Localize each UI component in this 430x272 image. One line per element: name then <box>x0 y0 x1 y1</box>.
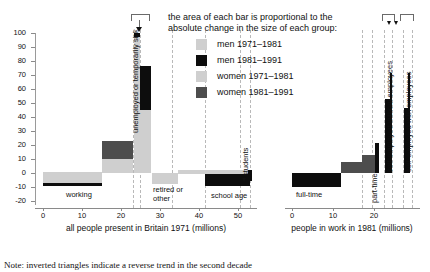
y-tick-label: -20 <box>4 197 26 205</box>
category-label-full-time: full-time <box>296 190 322 199</box>
y-tick-label: 50 <box>4 99 26 107</box>
legend-label: men 1971–1981 <box>217 39 282 50</box>
legend-item-women-81-91: women 1981–1991 <box>196 86 326 99</box>
y-tick-label: 10 <box>4 155 26 163</box>
category-label-students: students <box>241 148 250 176</box>
y-tick-mark <box>31 145 35 146</box>
y-tick-label: 70 <box>4 71 26 79</box>
category-separator <box>362 30 363 208</box>
y-tick-mark <box>31 61 35 62</box>
x-tick-label: 50 <box>229 212 247 220</box>
category-label-se-with: self-employed with employees <box>404 72 413 172</box>
legend-item-women-71-81: women 1971–1981 <box>196 70 326 83</box>
category-label-school-age: school age <box>211 191 247 200</box>
bar-working-women-71-81 <box>102 159 133 173</box>
legend-item-men-71-81: men 1971–1981 <box>196 38 326 51</box>
y-tick-label: 0 <box>4 169 26 177</box>
legend-swatch-icon <box>196 87 207 98</box>
legend-label: men 1981–1991 <box>217 55 282 66</box>
y-tick-mark <box>31 89 35 90</box>
bar-working-men-81-91 <box>43 183 102 186</box>
y-tick-mark <box>31 173 35 174</box>
y-tick-label: -10 <box>4 183 26 191</box>
category-label-retired: retired or other <box>153 185 183 203</box>
y-tick-label: 40 <box>4 113 26 121</box>
x-tick-label: 20 <box>365 212 383 220</box>
y-tick-label: 100 <box>4 29 26 37</box>
legend-swatch-icon <box>196 55 207 66</box>
y-tick-label: 20 <box>4 141 26 149</box>
bar-working-women-81-91 <box>102 141 133 159</box>
se-without-bracket <box>382 14 395 21</box>
x-axis-title-left: all people present in Britain 1971 (mill… <box>35 223 257 233</box>
category-label-unemployed: unemployed or temporarily sick <box>131 29 140 133</box>
bar-unemployed-women-81-91 <box>140 66 151 110</box>
y-tick-mark <box>31 187 35 188</box>
y-tick-label: 90 <box>4 43 26 51</box>
y-tick-label: 30 <box>4 127 26 135</box>
legend-swatch-icon <box>196 39 207 50</box>
x-axis-line-left <box>35 208 257 209</box>
category-label-se-without: self-employed without employees <box>385 61 394 172</box>
x-tick-label: 10 <box>73 212 91 220</box>
legend-label: women 1971–1981 <box>217 71 294 82</box>
bar-retired-men-71-81 <box>152 173 178 184</box>
reverse-trend-bracket <box>131 14 150 21</box>
y-tick-label: 80 <box>4 57 26 65</box>
bar-parttime-women-81-91 <box>362 155 375 173</box>
bar-schoolage-men-81-91 <box>205 174 233 186</box>
se-with-bracket <box>400 14 414 21</box>
x-tick-label: 0 <box>34 212 52 220</box>
y-tick-label: 60 <box>4 85 26 93</box>
chart-canvas: 100 90 80 70 60 50 40 30 20 10 0 -10 -20 <box>0 0 430 272</box>
legend-swatch-icon <box>196 71 207 82</box>
y-axis-line <box>35 33 36 205</box>
x-tick-label: 10 <box>324 212 342 220</box>
category-label-part-time: part-time <box>370 173 379 203</box>
y-tick-mark <box>31 117 35 118</box>
y-tick-mark <box>31 159 35 160</box>
legend-caption-line1: the area of each bar is proportional to … <box>168 12 333 23</box>
bar-parttime-men-81-91 <box>375 143 379 173</box>
y-tick-mark <box>31 47 35 48</box>
legend-item-men-81-91: men 1981–1991 <box>196 54 326 67</box>
inverted-triangle-icon <box>387 21 391 25</box>
y-tick-mark <box>31 131 35 132</box>
legend-caption-line2: absolute change in the size of each grou… <box>168 23 337 34</box>
bar-retired-women-71-81 <box>178 170 205 174</box>
legend-label: women 1981–1991 <box>217 87 294 98</box>
inverted-triangle-icon <box>242 178 246 182</box>
chart-note: Note: inverted triangles indicate a reve… <box>4 260 252 270</box>
bar-working-men-71-81 <box>43 172 102 183</box>
y-tick-mark <box>31 33 35 34</box>
category-label-working: working <box>66 190 92 199</box>
y-tick-mark <box>31 201 35 202</box>
y-tick-mark <box>31 103 35 104</box>
bar-fulltime-women-81-91 <box>341 162 362 173</box>
bar-fulltime-men-81-91 <box>292 173 341 187</box>
x-axis-title-right: people in work in 1981 (millions) <box>278 223 426 233</box>
x-tick-label: 0 <box>283 212 301 220</box>
x-tick-label: 30 <box>151 212 169 220</box>
x-axis-line-right <box>285 208 420 209</box>
x-tick-label: 40 <box>190 212 208 220</box>
inverted-triangle-icon <box>394 21 398 25</box>
x-tick-label: 20 <box>112 212 130 220</box>
y-tick-mark <box>31 75 35 76</box>
